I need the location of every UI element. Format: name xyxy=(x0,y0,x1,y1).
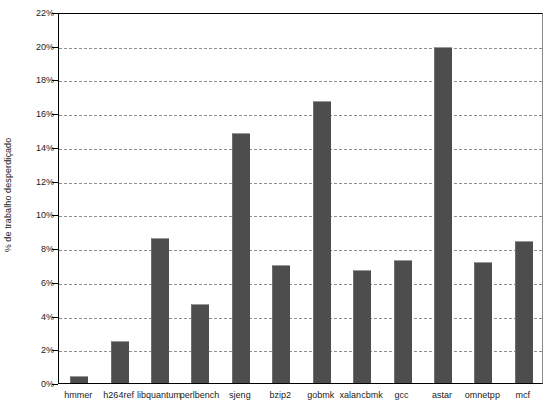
bar xyxy=(70,376,88,383)
x-axis-tick-label: libquantum xyxy=(137,390,181,400)
x-axis-tick-label: perlbench xyxy=(180,390,220,400)
y-axis-tick-labels: 0%2%4%6%8%10%12%14%16%18%20%22% xyxy=(18,0,54,420)
y-axis-tick-label: 2% xyxy=(20,345,54,355)
y-axis-tick-mark xyxy=(52,215,58,216)
bar xyxy=(353,270,371,383)
y-axis-tick-label: 20% xyxy=(20,42,54,52)
y-axis-tick-label: 12% xyxy=(20,177,54,187)
x-axis-tick-labels: hmmerh264reflibquantumperlbenchsjengbzip… xyxy=(58,390,543,412)
x-axis-tick-label: astar xyxy=(432,390,452,400)
y-axis-title: % de trabalho desperdiçado xyxy=(0,0,16,390)
bar xyxy=(111,341,129,383)
bars-group xyxy=(59,14,542,383)
bar xyxy=(515,241,533,383)
bar xyxy=(232,133,250,383)
y-axis-tick-label: 0% xyxy=(20,379,54,389)
x-axis-tick-label: xalancbmk xyxy=(340,390,383,400)
y-axis-tick-mark xyxy=(52,114,58,115)
bar xyxy=(474,262,492,383)
y-axis-tick-mark xyxy=(52,80,58,81)
bar xyxy=(151,238,169,383)
x-axis-tick-label: h264ref xyxy=(103,390,134,400)
y-axis-tick-label: 14% xyxy=(20,143,54,153)
y-axis-tick-label: 16% xyxy=(20,109,54,119)
bar xyxy=(313,101,331,383)
bar xyxy=(394,260,412,383)
y-axis-tick-mark xyxy=(52,317,58,318)
x-axis-tick-label: sjeng xyxy=(229,390,251,400)
y-axis-tick-mark xyxy=(52,13,58,14)
plot-area xyxy=(58,13,543,384)
y-axis-title-text: % de trabalho desperdiçado xyxy=(3,138,13,253)
y-axis-tick-mark xyxy=(52,182,58,183)
y-axis-tick-mark xyxy=(52,148,58,149)
y-axis-tick-label: 6% xyxy=(20,278,54,288)
bar xyxy=(272,265,290,383)
y-axis-tick-mark xyxy=(52,283,58,284)
bar xyxy=(434,47,452,383)
y-axis-tick-label: 10% xyxy=(20,210,54,220)
x-axis-tick-label: omnetpp xyxy=(465,390,500,400)
y-axis-tick-label: 8% xyxy=(20,244,54,254)
x-axis-tick-label: bzip2 xyxy=(270,390,292,400)
y-axis-tick-mark xyxy=(52,47,58,48)
x-axis-tick-label: hmmer xyxy=(64,390,92,400)
x-axis-tick-label: gobmk xyxy=(307,390,334,400)
bar xyxy=(191,304,209,383)
y-axis-tick-label: 18% xyxy=(20,75,54,85)
bar-chart: % de trabalho desperdiçado 0%2%4%6%8%10%… xyxy=(0,0,553,420)
x-axis-tick-label: mcf xyxy=(516,390,531,400)
y-axis-tick-label: 4% xyxy=(20,312,54,322)
y-axis-tick-mark xyxy=(52,384,58,385)
y-axis-tick-mark xyxy=(52,350,58,351)
y-axis-tick-label: 22% xyxy=(20,8,54,18)
x-axis-tick-label: gcc xyxy=(395,390,409,400)
y-axis-tick-mark xyxy=(52,249,58,250)
